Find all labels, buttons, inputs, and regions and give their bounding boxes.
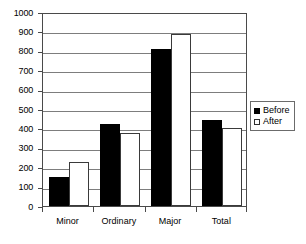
chart-legend: BeforeAfter: [250, 101, 295, 131]
x-tick-label-minor: Minor: [56, 216, 79, 227]
legend-item-after[interactable]: After: [254, 116, 290, 127]
x-tick-label-ordinary: Ordinary: [102, 216, 137, 227]
legend-swatch-after-icon: [254, 119, 260, 125]
y-axis: 01002003004005006007008009001000: [0, 0, 42, 244]
legend-label: After: [263, 117, 282, 126]
bar-major-before: [151, 49, 171, 206]
y-tick-label: 500: [19, 106, 33, 115]
x-tick-mark: [196, 207, 197, 212]
x-axis-ticks: [42, 207, 247, 213]
x-tick-label-total: Total: [212, 216, 231, 227]
legend-label: Before: [263, 106, 290, 115]
bar-minor-before: [49, 177, 69, 206]
bar-major-after: [171, 34, 191, 206]
y-tick-label: 200: [19, 164, 33, 173]
x-tick-label-major: Major: [159, 216, 182, 227]
y-tick-label: 300: [19, 144, 33, 153]
x-axis-labels: MinorOrdinaryMajorTotal: [42, 216, 247, 232]
bar-total-before: [202, 120, 222, 206]
bar-chart: 01002003004005006007008009001000 MinorOr…: [0, 0, 306, 244]
y-tick-label: 100: [19, 183, 33, 192]
x-tick-mark: [145, 207, 146, 212]
y-tick-label: 0: [28, 203, 33, 212]
x-tick-mark: [93, 207, 94, 212]
y-tick-label: 600: [19, 86, 33, 95]
legend-item-before[interactable]: Before: [254, 105, 290, 116]
bar-total-after: [222, 128, 242, 206]
y-tick-label: 1000: [14, 9, 33, 18]
bar-ordinary-after: [120, 133, 140, 206]
legend-swatch-before-icon: [254, 108, 260, 114]
plot-area: [42, 13, 247, 207]
bars-layer: [43, 14, 246, 206]
bar-ordinary-before: [100, 124, 120, 206]
x-tick-mark: [246, 207, 247, 212]
y-tick-label: 400: [19, 125, 33, 134]
y-tick-label: 700: [19, 67, 33, 76]
bar-minor-after: [69, 162, 89, 206]
y-tick-label: 800: [19, 47, 33, 56]
y-tick-label: 900: [19, 28, 33, 37]
x-tick-mark: [42, 207, 43, 212]
